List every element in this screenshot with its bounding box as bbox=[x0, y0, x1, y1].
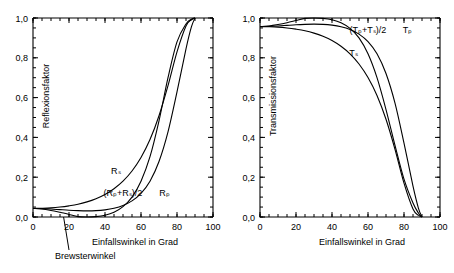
y-tick-label: 0,4 bbox=[15, 133, 28, 143]
x-tick-label: 60 bbox=[136, 222, 146, 232]
curve--r-p-r-s--2 bbox=[33, 18, 195, 211]
x-tick-label: 100 bbox=[205, 222, 220, 232]
x-tick-label: 20 bbox=[291, 222, 301, 232]
transmission-chart-svg: 0204060801000,00,20,40,60,81,0Einfallswi… bbox=[227, 0, 454, 273]
y-axis-title: Reflexionsfaktor bbox=[41, 64, 51, 129]
y-tick-label: 0,2 bbox=[242, 173, 255, 183]
curve-t-p bbox=[260, 18, 422, 217]
curve-label--t-p-t-s--2: (Tₚ+Tₛ)/2 bbox=[350, 25, 387, 35]
y-tick-label: 0,2 bbox=[15, 173, 28, 183]
x-tick-label: 40 bbox=[100, 222, 110, 232]
annotation-brewsterwinkel: Brewsterwinkel bbox=[55, 251, 116, 261]
y-tick-label: 0,0 bbox=[15, 213, 28, 223]
y-tick-label: 1,0 bbox=[242, 14, 255, 24]
reflection-chart-panel: 0204060801000,00,20,40,60,81,0Einfallswi… bbox=[0, 0, 227, 273]
y-tick-label: 0,8 bbox=[242, 53, 255, 63]
y-tick-label: 0,6 bbox=[15, 93, 28, 103]
reflection-chart-svg: 0204060801000,00,20,40,60,81,0Einfallswi… bbox=[0, 0, 227, 273]
y-tick-label: 0,4 bbox=[242, 133, 255, 143]
curve-label-r-s: Rₛ bbox=[111, 166, 121, 176]
y-axis-title: Transmissionsfaktor bbox=[268, 56, 278, 136]
curve-label-t-s: Tₛ bbox=[349, 48, 358, 58]
x-axis-title: Einfallswinkel in Grad bbox=[319, 237, 405, 247]
curve--t-p-t-s--2 bbox=[260, 24, 422, 217]
x-tick-label: 40 bbox=[327, 222, 337, 232]
y-tick-label: 0,8 bbox=[15, 53, 28, 63]
y-tick-label: 0,0 bbox=[242, 213, 255, 223]
x-tick-label: 0 bbox=[257, 222, 262, 232]
x-tick-label: 0 bbox=[30, 222, 35, 232]
transmission-chart-panel: 0204060801000,00,20,40,60,81,0Einfallswi… bbox=[227, 0, 454, 273]
y-tick-label: 1,0 bbox=[15, 14, 28, 24]
curve-label-t-p: Tₚ bbox=[403, 25, 413, 35]
x-tick-label: 80 bbox=[172, 222, 182, 232]
curve-label-r-p: Rₚ bbox=[159, 188, 170, 198]
y-tick-label: 0,6 bbox=[242, 93, 255, 103]
figure-root: 0204060801000,00,20,40,60,81,0Einfallswi… bbox=[0, 0, 454, 273]
x-axis-title: Einfallswinkel in Grad bbox=[92, 237, 178, 247]
x-tick-label: 100 bbox=[432, 222, 447, 232]
x-tick-label: 80 bbox=[399, 222, 409, 232]
x-tick-label: 60 bbox=[363, 222, 373, 232]
curve-t-s bbox=[260, 27, 422, 217]
curve-r-s bbox=[33, 18, 195, 208]
